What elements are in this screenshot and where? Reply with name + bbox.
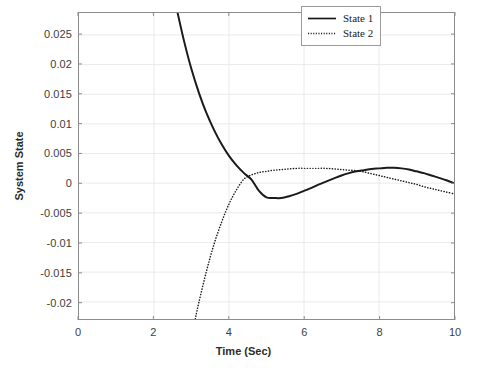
x-tick-label: 10: [449, 326, 461, 338]
legend[interactable]: State 1 State 2: [301, 6, 381, 46]
legend-line-sample-dotted: [307, 28, 337, 39]
legend-entry-state-2[interactable]: State 2: [307, 26, 373, 41]
x-tick-label: 4: [226, 326, 232, 338]
legend-line-sample-solid: [307, 13, 337, 24]
x-axis-tick-labels: 0246810: [0, 326, 487, 342]
legend-label-state-1: State 1: [343, 13, 373, 24]
axis-tick-marks: [0, 0, 487, 372]
x-tick-label: 2: [150, 326, 156, 338]
x-tick-label: 8: [377, 326, 383, 338]
legend-entry-state-1[interactable]: State 1: [307, 11, 373, 26]
x-axis-title: Time (Sec): [0, 345, 487, 357]
x-tick-label: 6: [301, 326, 307, 338]
figure-canvas: System State 0.0250.020.0150.010.0050-0.…: [0, 0, 487, 372]
x-tick-label: 0: [75, 326, 81, 338]
legend-label-state-2: State 2: [343, 28, 373, 39]
